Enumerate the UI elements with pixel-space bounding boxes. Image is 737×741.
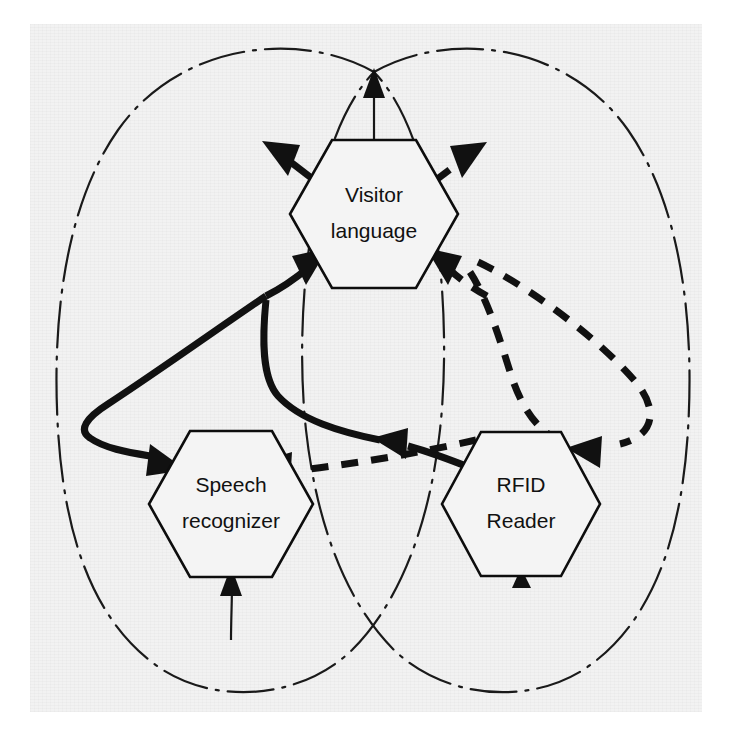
node-speech-recognizer-line1: Speech [195,473,266,496]
edge-visitor-loop-to-rfid [470,272,572,446]
diagram-canvas: Visitor language Speech recognizer RFID … [0,0,737,741]
node-visitor-language-line2: language [331,219,417,242]
node-speech-recognizer-line2: recognizer [182,509,280,532]
edge-visitor-out-upright [436,162,460,180]
arrowhead-visitor-out-upright [450,142,487,178]
arrowhead-visitor-out-upleft [262,141,300,176]
node-rfid-reader-line2: Reader [487,509,556,532]
arrowhead-visitor-top [363,68,385,98]
edge-visitor-loop-to-rfid-outer [478,262,650,444]
node-speech-recognizer[interactable]: Speech recognizer [149,431,313,577]
node-rfid-reader-line1: RFID [497,473,546,496]
edge-solid-branch-upper [264,300,380,440]
diagram-figure: Visitor language Speech recognizer RFID … [0,0,737,741]
hexagon-speech-recognizer[interactable] [149,431,313,577]
node-visitor-language-line1: Visitor [345,183,403,206]
